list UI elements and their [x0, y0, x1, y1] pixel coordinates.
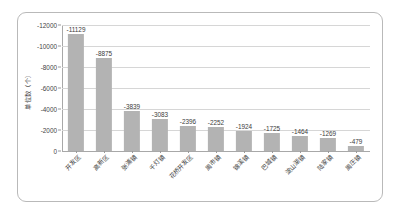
y-tick-label: -6000 — [41, 85, 57, 92]
y-tick-mark — [58, 25, 61, 26]
y-tick-mark — [58, 67, 61, 68]
x-tick-slot: 周庄镇 — [342, 25, 370, 151]
y-tick-label: -12000 — [37, 22, 57, 29]
y-axis-title: 单位数（个） — [20, 44, 34, 136]
x-tick-slot: 周市镇 — [202, 25, 230, 151]
x-tick-slot: 开发区 — [62, 25, 90, 151]
y-axis-title-text: 单位数（个） — [23, 71, 32, 109]
y-tick-label: -8000 — [41, 64, 57, 71]
y-tick-mark — [58, 151, 61, 152]
x-tick-slot: 锦溪镇 — [230, 25, 258, 151]
y-tick-mark — [58, 109, 61, 110]
y-tick-mark — [58, 88, 61, 89]
y-tick-mark — [58, 130, 61, 131]
y-tick-mark — [58, 46, 61, 47]
y-tick-label: 0 — [53, 148, 57, 155]
x-tick-slot: 巴城镇 — [258, 25, 286, 151]
chart-figure: 单位数（个） 0-2000-4000-6000-8000-10000-12000… — [0, 0, 400, 215]
x-tick-slot: 花桥开发区 — [174, 25, 202, 151]
plot-area: 0-2000-4000-6000-8000-10000-12000 -11129… — [62, 25, 370, 151]
y-tick-label: -10000 — [37, 43, 57, 50]
y-tick-label: -2000 — [41, 127, 57, 134]
x-tick-slot: 陆家镇 — [314, 25, 342, 151]
x-tick-slot: 张浦镇 — [118, 25, 146, 151]
y-tick-label: -4000 — [41, 106, 57, 113]
x-tick-slot: 淀山湖镇 — [286, 25, 314, 151]
x-tick-slot: 千灯镇 — [146, 25, 174, 151]
x-tick-slot: 高新区 — [90, 25, 118, 151]
